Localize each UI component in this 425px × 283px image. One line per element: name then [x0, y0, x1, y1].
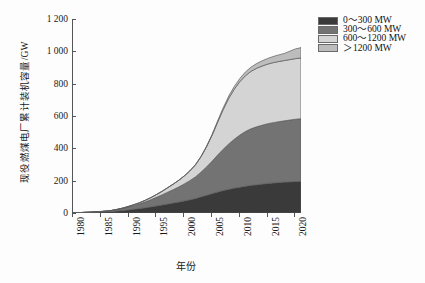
y-tick-label: 1 000	[2, 46, 68, 56]
x-tick-label: 2010	[243, 217, 253, 236]
x-tick-label: 1995	[159, 217, 169, 236]
y-tick-label: 1 200	[2, 14, 68, 24]
y-tick-label: 200	[2, 176, 68, 186]
x-tick-label: 2020	[298, 217, 308, 236]
x-tick-label: 1990	[132, 217, 142, 236]
x-tick-mark	[211, 213, 212, 217]
legend-label: ＞1200 MW	[343, 44, 392, 53]
x-tick-mark	[267, 213, 268, 217]
x-tick-label: 2000	[187, 217, 197, 236]
x-tick-label: 2005	[215, 217, 225, 236]
x-tick-mark	[239, 213, 240, 217]
x-tick-label: 1985	[104, 217, 114, 236]
legend-swatch	[318, 44, 338, 52]
chart-figure: 现役燃煤电厂累计装机容量/GW 02004006008001 0001 200 …	[0, 0, 425, 283]
legend-swatch	[318, 26, 338, 34]
x-tick-mark	[128, 213, 129, 217]
x-axis-title: 年份	[72, 258, 300, 273]
x-tick-mark	[72, 213, 73, 217]
y-tick-label: 0	[2, 208, 68, 218]
legend-swatch	[318, 35, 338, 43]
chart-legend: 0～300 MW300～600 MW600～1200 MW＞1200 MW	[318, 16, 406, 53]
y-axis-tick-labels: 02004006008001 0001 200	[0, 0, 68, 283]
x-tick-mark	[294, 213, 295, 217]
x-tick-mark	[183, 213, 184, 217]
y-tick-label: 800	[2, 79, 68, 89]
plot-area	[72, 19, 300, 213]
legend-swatch	[318, 17, 338, 25]
stacked-area-svg	[73, 19, 301, 213]
legend-item[interactable]: ＞1200 MW	[318, 44, 406, 53]
y-tick-label: 600	[2, 111, 68, 121]
x-tick-mark	[155, 213, 156, 217]
x-tick-label: 2015	[271, 217, 281, 236]
x-tick-label: 1980	[76, 217, 86, 236]
x-tick-mark	[100, 213, 101, 217]
y-tick-label: 400	[2, 143, 68, 153]
